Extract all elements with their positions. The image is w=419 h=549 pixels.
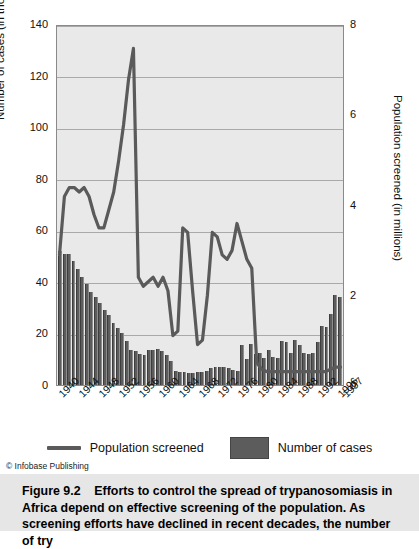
y-tick-left-60: 60 bbox=[14, 225, 48, 235]
y-tick-left-40: 40 bbox=[14, 277, 48, 287]
y-tick-left-120: 120 bbox=[14, 71, 48, 81]
caption-text: Figure 9.2 Efforts to control the spread… bbox=[22, 483, 397, 549]
y-tick-right-4: 4 bbox=[350, 200, 374, 210]
chart-panel: Number of cases (in thousands) Populatio… bbox=[0, 0, 419, 475]
y-tick-left-100: 100 bbox=[14, 122, 48, 132]
legend-label-number-of-cases: Number of cases bbox=[278, 441, 372, 455]
y-tick-right-8: 8 bbox=[350, 19, 374, 29]
caption-figure-number: Figure 9.2 bbox=[22, 484, 81, 498]
y-axis-left-label: Number of cases (in thousands) bbox=[0, 0, 6, 120]
legend-swatch-icon bbox=[230, 437, 269, 459]
line-series-population-screened bbox=[57, 26, 343, 385]
x-axis-ticks: 1940194419481952195619601964196819721976… bbox=[56, 388, 344, 432]
y-tick-left-140: 140 bbox=[14, 19, 48, 29]
y-tick-left-80: 80 bbox=[14, 174, 48, 184]
legend-item-number-of-cases: Number of cases bbox=[230, 437, 372, 459]
y-tick-right-6: 6 bbox=[350, 109, 374, 119]
y-tick-right-2: 2 bbox=[350, 290, 374, 300]
plot-area bbox=[56, 25, 344, 386]
y-tick-left-0: 0 bbox=[14, 380, 48, 390]
y-axis-right-label: Population screened (in millions) bbox=[392, 95, 404, 325]
legend-line-icon bbox=[47, 446, 81, 450]
legend-label-population-screened: Population screened bbox=[90, 441, 204, 455]
y-tick-left-20: 20 bbox=[14, 328, 48, 338]
chart-legend: Population screened Number of cases bbox=[0, 436, 419, 460]
figure-caption: Figure 9.2 Efforts to control the spread… bbox=[0, 474, 419, 531]
legend-item-population-screened: Population screened bbox=[47, 441, 204, 455]
publisher-credit: © Infobase Publishing bbox=[6, 461, 89, 471]
